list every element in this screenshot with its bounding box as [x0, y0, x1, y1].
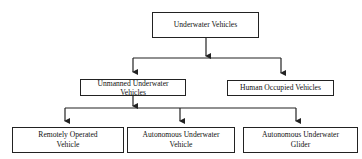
node-label: Autonomous Underwater Vehicle [136, 130, 226, 150]
node-autonomous-underwater-glider: Autonomous Underwater Glider [243, 127, 358, 153]
node-underwater-vehicles: Underwater Vehicles [152, 12, 259, 38]
node-label: Autonomous Underwater Glider [256, 130, 346, 150]
node-human-occupied-vehicles: Human Occupied Vehicles [227, 80, 334, 96]
node-label: Underwater Vehicles [174, 20, 237, 30]
node-label: Human Occupied Vehicles [240, 83, 321, 93]
node-label: Unmanned Underwater Vehicles [84, 79, 182, 97]
node-label: Remotely Operated Vehicle [33, 130, 103, 150]
node-remotely-operated-vehicle: Remotely Operated Vehicle [12, 127, 124, 153]
node-autonomous-underwater-vehicle: Autonomous Underwater Vehicle [127, 127, 235, 153]
node-unmanned-underwater-vehicles: Unmanned Underwater Vehicles [80, 79, 186, 96]
